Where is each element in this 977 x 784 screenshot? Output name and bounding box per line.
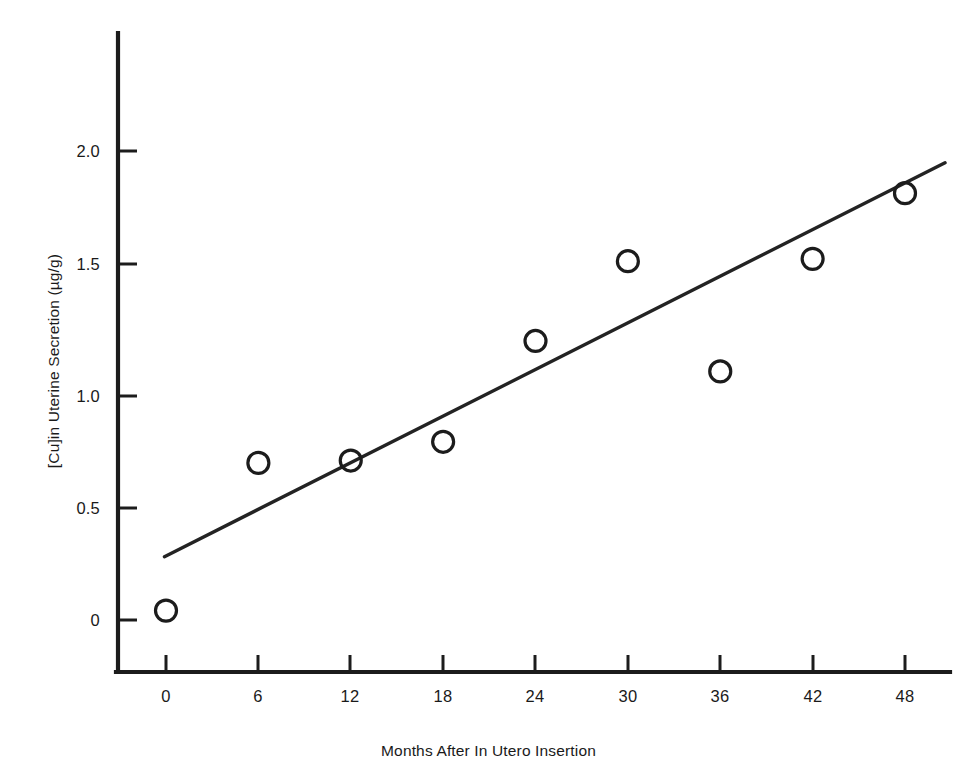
figure-panel: [Cu]in Uterine Secretion (µg/g) Months A…	[0, 0, 977, 784]
data-point-marker	[248, 452, 269, 473]
data-point-marker	[617, 251, 638, 272]
data-point-marker	[525, 330, 546, 351]
data-point-group	[156, 183, 916, 621]
data-point-marker	[433, 431, 454, 452]
x-tick-marks	[166, 655, 905, 672]
data-point-marker	[710, 361, 731, 382]
data-point-marker	[156, 600, 177, 621]
y-tick-marks	[118, 151, 137, 620]
plot-canvas	[0, 0, 977, 784]
data-point-marker	[895, 183, 916, 204]
data-point-marker	[802, 248, 823, 269]
trend-line	[164, 163, 945, 557]
